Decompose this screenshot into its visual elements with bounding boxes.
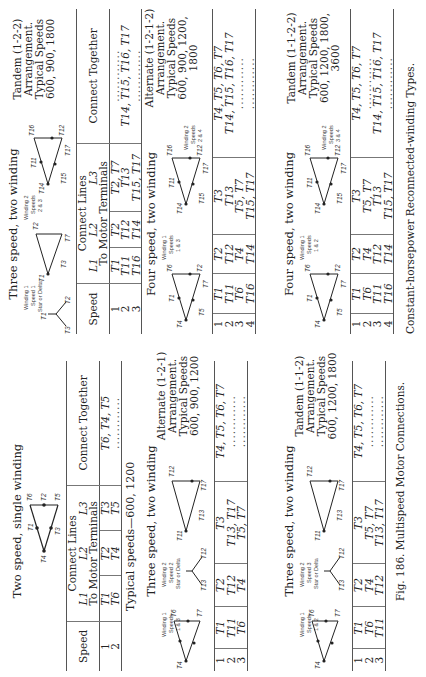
svg-text:T16: T16 xyxy=(304,144,311,156)
l1-cell: T16 xyxy=(245,274,256,314)
connection-table: 1 T1 T2 T3 T4, T5, T6, T7 2 T11 T12 T13,… xyxy=(214,361,248,671)
l3-cell: T13 xyxy=(372,158,383,234)
svg-text:Winding 1: Winding 1 xyxy=(161,613,167,637)
svg-text:T2: T2 xyxy=(64,296,71,304)
svg-text:T12: T12 xyxy=(58,124,65,136)
svg-text:T14: T14 xyxy=(314,202,321,214)
svg-text:T17: T17 xyxy=(64,144,71,156)
speed-cell: 3 xyxy=(236,649,247,671)
connection-table: 1 T1 T2 T3 T4, T5, T6, T7 2 T6 T4 T5, T7… xyxy=(352,361,386,671)
svg-text:T13: T13 xyxy=(338,579,345,591)
figure-caption: Fig. 186. Multispeed Motor Connections. xyxy=(394,382,406,601)
svg-text:T11: T11 xyxy=(30,157,37,168)
together-cell: ............ xyxy=(236,361,247,482)
two-winding-diagram: Winding 1Speed 1Star or Delta T1T3T2 T1T… xyxy=(20,114,72,334)
svg-text:T5: T5 xyxy=(198,308,205,316)
l2-cell: T2 xyxy=(351,234,362,274)
svg-text:T12: T12 xyxy=(168,465,175,477)
l1-cell: T6 xyxy=(110,576,121,621)
l2-cell: T14 xyxy=(383,234,394,274)
table-row: 2 T11 T12 T13 T14, T15, T16, T17 xyxy=(120,9,131,334)
together-cell: T14, T15, T16, T17 xyxy=(120,9,131,143)
svg-text:Winding 1: Winding 1 xyxy=(299,613,305,637)
typical-speeds-values: 600, 1200, 1800 xyxy=(327,341,338,451)
connection-table: Speed Connect Lines Connect Together L1 … xyxy=(66,361,122,671)
table-row: 4 T16 T14 T15, T17 ............ xyxy=(245,9,256,334)
l3-cell: T13, T17 xyxy=(374,482,385,564)
svg-text:T7: T7 xyxy=(340,280,347,288)
svg-text:Speeds: Speeds xyxy=(30,195,36,214)
three-speed-alternate-section: Three speed, two winding Winding 1Speeds… xyxy=(142,341,282,671)
svg-text:2 & 3: 2 & 3 xyxy=(37,199,43,212)
speed-cell: 3 xyxy=(131,283,142,334)
l3-cell: T3 xyxy=(215,482,226,564)
table-row: 3 T6 T4 T5, T7 ............ xyxy=(234,9,245,334)
table-row: 1 T1 T2 T3 T4, T5, T6, T7 xyxy=(353,361,364,671)
svg-text:Speeds: Speeds xyxy=(306,235,312,254)
l3-cell: T3 xyxy=(213,158,224,234)
l1-cell: T11 xyxy=(120,248,131,284)
svg-text:T17: T17 xyxy=(202,162,209,174)
svg-text:T11: T11 xyxy=(168,177,175,188)
table-row: 2 T6 T4 T5 ............ xyxy=(110,361,121,671)
three-speed-tandem-122-section: Three speed, two winding Winding 1Speed … xyxy=(0,4,140,334)
three-speed-tandem-section: Three speed, two winding Winding 1Speeds… xyxy=(280,341,410,671)
svg-text:T5: T5 xyxy=(336,308,343,316)
together-cell: ............ xyxy=(374,361,385,482)
connection-table: 1 T1 T2 T3 T4, T5, T6, T7 2 T6 T4 T5, T7… xyxy=(350,9,394,334)
section-title: Two speed, single winding xyxy=(10,371,24,671)
l2-cell: T2 xyxy=(215,564,226,607)
together-cell: ............ xyxy=(234,9,245,158)
two-speed-single-winding-section: Two speed, single winding T4T1T3 T6T2T5 … xyxy=(0,341,140,671)
svg-text:T1: T1 xyxy=(40,312,47,320)
together-cell: ............ xyxy=(245,9,256,158)
l1-cell: T11 xyxy=(374,606,385,649)
svg-text:T4: T4 xyxy=(314,320,321,328)
svg-text:1 & 3: 1 & 3 xyxy=(175,618,181,631)
speed-cell: 3 xyxy=(374,649,385,671)
svg-text:T14: T14 xyxy=(176,202,183,214)
svg-text:T1: T1 xyxy=(38,274,45,282)
l1-cell: T6 xyxy=(234,274,245,314)
svg-text:T7: T7 xyxy=(64,234,71,242)
l2-cell: T12 xyxy=(374,564,385,607)
rotated-book-page: Two speed, single winding T4T1T3 T6T2T5 … xyxy=(0,0,426,677)
svg-text:T3: T3 xyxy=(64,326,71,334)
l2-cell: T4 xyxy=(110,531,121,576)
table-row: 1 T1 T2 T3 T4, T5, T6, T7 xyxy=(351,9,362,334)
together-cell: T4, T5, T6, T7 xyxy=(215,361,226,482)
speed-cell: 1 xyxy=(215,649,226,671)
l1-cell: T6 xyxy=(236,606,247,649)
l1-cell: T11 xyxy=(372,274,383,314)
svg-text:Winding 1: Winding 1 xyxy=(161,236,167,260)
section-title: Four speed, two winding xyxy=(282,114,296,334)
together-cell: ............ xyxy=(383,9,394,158)
delta-winding-diagram: T4T1T3 T6T2T5 xyxy=(26,471,62,571)
svg-text:T17: T17 xyxy=(338,479,345,491)
svg-text:Star or Delta: Star or Delta xyxy=(175,557,181,589)
svg-text:T12: T12 xyxy=(334,144,341,156)
svg-text:T16: T16 xyxy=(28,124,35,136)
typical-speeds-values: 600, 1200, 1800, 3600 xyxy=(319,4,341,112)
l1-cell: T16 xyxy=(383,274,394,314)
svg-text:T15: T15 xyxy=(198,192,205,204)
l3-cell: T5 xyxy=(110,485,121,530)
svg-text:Winding 2: Winding 2 xyxy=(299,563,305,587)
two-winding-diagram: T4T1T6T2T7T5 Winding 1Speeds1 & 2 T14T11… xyxy=(296,114,348,334)
svg-text:Winding 1: Winding 1 xyxy=(23,286,29,310)
l2-cell: T14 xyxy=(245,234,256,274)
arrangement-label: Tandem (1-2-2) Arrangement. Typical Spee… xyxy=(12,4,56,114)
connect-together-header: Connect Together xyxy=(67,361,100,485)
typical-speeds-values: 600, 900, 1200 xyxy=(189,341,200,451)
svg-text:T6: T6 xyxy=(308,609,315,617)
svg-text:Star or Delta: Star or Delta xyxy=(313,557,319,589)
table-row: 3 T6 T4 T5, T7 ............ xyxy=(236,361,247,671)
table-row: 1 T1 T2 T3 T4, T5, T6, T7 xyxy=(213,9,224,334)
speed-cell: 4 xyxy=(383,313,394,334)
svg-text:1 & 3: 1 & 3 xyxy=(175,239,181,252)
svg-text:T1: T1 xyxy=(27,523,34,531)
svg-text:T1: T1 xyxy=(306,294,313,302)
l1-cell: T1 xyxy=(353,606,364,649)
svg-text:T11: T11 xyxy=(176,530,183,541)
l3-cell: T13 xyxy=(120,143,131,212)
